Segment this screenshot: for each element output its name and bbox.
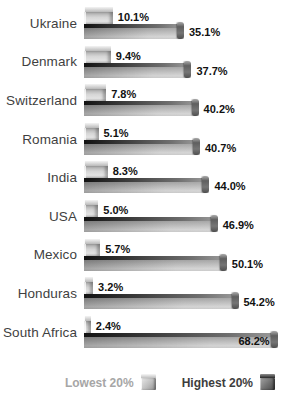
lowest-20-value-label: 5.7% (105, 243, 130, 256)
income-share-bar-chart: Ukraine10.1%35.1%Denmark9.4%37.7%Switzer… (0, 0, 283, 399)
chart-row: Ukraine10.1%35.1% (0, 6, 283, 45)
row-plot: 5.0%46.9% (84, 199, 283, 238)
highest-20-bar (84, 67, 191, 78)
lowest-20-bar (84, 321, 91, 333)
lowest-20-bar (84, 51, 111, 63)
highest-20-value-label: 35.1% (189, 26, 220, 39)
country-label: India (0, 160, 84, 199)
highest-20-bar (84, 28, 184, 39)
chart-row: USA5.0%46.9% (0, 199, 283, 238)
highest-20-value-label: 37.7% (196, 65, 227, 78)
country-label: South Africa (0, 315, 84, 354)
highest-20-bar (84, 260, 227, 271)
highest-20-bar (84, 144, 200, 155)
legend-item-lowest: Lowest 20% (65, 375, 156, 390)
chart-row: Denmark9.4%37.7% (0, 45, 283, 84)
highest-20-value-label: 54.2% (244, 296, 275, 309)
lowest-20-value-label: 5.1% (104, 127, 129, 140)
lowest-20-value-label: 7.8% (111, 88, 136, 101)
highest-20-value-label: 68.2% (238, 335, 269, 348)
lowest-20-value-label: 10.1% (118, 11, 149, 24)
highest-20-value-label: 40.2% (204, 103, 235, 116)
chart-row: South Africa2.4%68.2% (0, 315, 283, 354)
lowest-20-bar (84, 166, 108, 178)
lowest-20-cube-icon (141, 378, 156, 390)
highest-20-bar (84, 105, 199, 116)
row-plot: 8.3%44.0% (84, 160, 283, 199)
legend-item-highest: Highest 20% (182, 375, 275, 390)
lowest-20-bar (84, 89, 106, 101)
country-label: Honduras (0, 276, 84, 315)
chart-row: Honduras3.2%54.2% (0, 276, 283, 315)
chart-row: Mexico5.7%50.1% (0, 238, 283, 277)
lowest-20-value-label: 2.4% (96, 320, 121, 333)
chart-rows: Ukraine10.1%35.1%Denmark9.4%37.7%Switzer… (0, 6, 283, 353)
country-label: Switzerland (0, 83, 84, 122)
highest-20-value-label: 50.1% (232, 258, 263, 271)
chart-row: India8.3%44.0% (0, 160, 283, 199)
lowest-20-value-label: 3.2% (98, 281, 123, 294)
highest-20-bar (84, 182, 209, 193)
highest-20-bar (84, 221, 218, 232)
lowest-20-bar (84, 282, 93, 294)
lowest-20-value-label: 9.4% (116, 50, 141, 63)
highest-20-cube-icon (260, 378, 275, 390)
legend-label-highest: Highest 20% (182, 376, 253, 390)
lowest-20-value-label: 5.0% (103, 204, 128, 217)
row-plot: 5.1%40.7% (84, 122, 283, 161)
row-plot: 5.7%50.1% (84, 238, 283, 277)
country-label: USA (0, 199, 84, 238)
row-plot: 2.4%68.2% (84, 315, 283, 354)
lowest-20-bar (84, 128, 99, 140)
lowest-20-bar (84, 244, 100, 256)
lowest-20-value-label: 8.3% (113, 165, 138, 178)
country-label: Denmark (0, 45, 84, 84)
chart-legend: Lowest 20% Highest 20% (0, 375, 283, 390)
row-plot: 9.4%37.7% (84, 45, 283, 84)
country-label: Ukraine (0, 6, 84, 45)
row-plot: 7.8%40.2% (84, 83, 283, 122)
highest-20-bar (84, 298, 239, 309)
lowest-20-bar (84, 205, 98, 217)
highest-20-value-label: 44.0% (214, 180, 245, 193)
row-plot: 3.2%54.2% (84, 276, 283, 315)
country-label: Mexico (0, 238, 84, 277)
highest-20-value-label: 46.9% (223, 219, 254, 232)
chart-row: Switzerland7.8%40.2% (0, 83, 283, 122)
lowest-20-bar (84, 12, 113, 24)
highest-20-value-label: 40.7% (205, 142, 236, 155)
row-plot: 10.1%35.1% (84, 6, 283, 45)
chart-row: Romania5.1%40.7% (0, 122, 283, 161)
country-label: Romania (0, 122, 84, 161)
legend-label-lowest: Lowest 20% (65, 376, 134, 390)
